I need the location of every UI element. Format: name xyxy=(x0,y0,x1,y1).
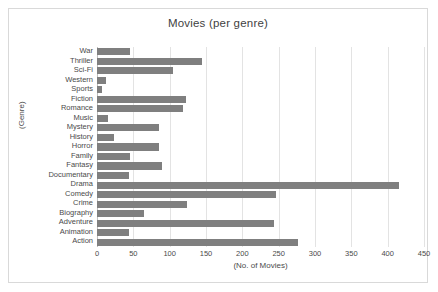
x-tick-label-200: 200 xyxy=(236,249,249,258)
category-label: Western xyxy=(65,75,93,85)
category-label: War xyxy=(80,46,93,56)
bar-row: Adventure xyxy=(97,218,424,228)
category-label: Fiction xyxy=(71,94,93,104)
bar-row: Drama xyxy=(97,180,424,190)
bar-row: Romance xyxy=(97,104,424,114)
bar[interactable] xyxy=(97,229,129,236)
category-label: Romance xyxy=(61,103,93,113)
bar[interactable] xyxy=(97,143,159,150)
y-axis-title: (Genre) xyxy=(17,101,26,129)
bar-row: Animation xyxy=(97,228,424,238)
bar-row: Sports xyxy=(97,85,424,95)
category-label: Mystery xyxy=(67,122,93,132)
bar-row: Crime xyxy=(97,199,424,209)
bar-row: Sci-Fi xyxy=(97,66,424,76)
bar-row: Biography xyxy=(97,209,424,219)
bar-row: Fiction xyxy=(97,95,424,105)
bar[interactable] xyxy=(97,124,159,131)
bar[interactable] xyxy=(97,182,399,189)
bar-row: Documentary xyxy=(97,171,424,181)
chart-title: Movies (per genre) xyxy=(9,17,427,29)
bar-row: Thriller xyxy=(97,57,424,67)
category-label: Biography xyxy=(59,208,93,218)
bar-series: WarThrillerSci-FiWesternSportsFictionRom… xyxy=(97,47,424,247)
gridline-450 xyxy=(424,47,425,247)
bar-row: Horror xyxy=(97,142,424,152)
category-label: Sci-Fi xyxy=(74,65,93,75)
x-tick-label-250: 250 xyxy=(272,249,285,258)
bar[interactable] xyxy=(97,153,130,160)
bar[interactable] xyxy=(97,48,130,55)
category-label: Fantasy xyxy=(66,160,93,170)
category-label: Music xyxy=(73,113,93,123)
category-label: Drama xyxy=(70,179,93,189)
bar-row: Mystery xyxy=(97,123,424,133)
bar[interactable] xyxy=(97,134,114,141)
bar[interactable] xyxy=(97,115,108,122)
category-label: History xyxy=(70,132,93,142)
bar[interactable] xyxy=(97,220,274,227)
x-tick-label-400: 400 xyxy=(381,249,394,258)
bar-row: Family xyxy=(97,152,424,162)
x-tick-label-0: 0 xyxy=(95,249,99,258)
category-label: Family xyxy=(71,151,93,161)
bar[interactable] xyxy=(97,162,162,169)
bar[interactable] xyxy=(97,105,183,112)
bar[interactable] xyxy=(97,201,187,208)
bar[interactable] xyxy=(97,191,276,198)
bar-row: War xyxy=(97,47,424,57)
bar-row: Action xyxy=(97,237,424,247)
x-tick-label-50: 50 xyxy=(129,249,137,258)
bar[interactable] xyxy=(97,86,102,93)
chart-container: Movies (per genre) (Genre) WarThrillerSc… xyxy=(8,8,428,283)
category-label: Comedy xyxy=(65,189,93,199)
bar-row: Comedy xyxy=(97,190,424,200)
bar-row: Fantasy xyxy=(97,161,424,171)
bar-row: Music xyxy=(97,114,424,124)
category-label: Documentary xyxy=(48,170,93,180)
x-tick-label-350: 350 xyxy=(345,249,358,258)
category-label: Sports xyxy=(71,84,93,94)
x-tick-label-450: 450 xyxy=(418,249,431,258)
x-tick-label-150: 150 xyxy=(200,249,213,258)
x-tick-label-300: 300 xyxy=(309,249,322,258)
plot-area: WarThrillerSci-FiWesternSportsFictionRom… xyxy=(97,47,424,247)
bar[interactable] xyxy=(97,172,129,179)
x-tick-label-100: 100 xyxy=(163,249,176,258)
category-label: Action xyxy=(72,236,93,246)
category-label: Crime xyxy=(73,198,93,208)
x-axis-ticks: 050100150200250300350400450 xyxy=(97,249,424,261)
bar[interactable] xyxy=(97,77,106,84)
bar[interactable] xyxy=(97,210,144,217)
category-label: Thriller xyxy=(70,56,93,66)
x-axis-title: (No. of Movies) xyxy=(97,261,424,270)
bar-row: Western xyxy=(97,76,424,86)
bar[interactable] xyxy=(97,67,173,74)
category-label: Animation xyxy=(60,227,93,237)
category-label: Adventure xyxy=(59,217,93,227)
bar[interactable] xyxy=(97,96,186,103)
bar[interactable] xyxy=(97,239,298,246)
bar-row: History xyxy=(97,133,424,143)
category-label: Horror xyxy=(72,141,93,151)
bar[interactable] xyxy=(97,58,202,65)
